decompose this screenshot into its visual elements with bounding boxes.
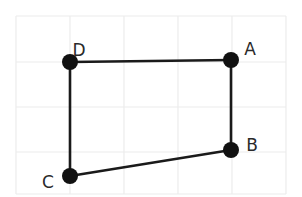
polygon-edges [70, 60, 231, 176]
vertex-label-d: D [72, 40, 85, 60]
edge-bc [70, 150, 231, 176]
vertex-a [223, 52, 239, 68]
vertex-b [223, 142, 239, 158]
vertex-c [62, 168, 78, 184]
vertex-label-b: B [246, 135, 258, 155]
vertex-label-a: A [244, 39, 256, 59]
quadrilateral-diagram: ABCD [0, 0, 302, 197]
vertex-label-c: C [42, 172, 54, 192]
